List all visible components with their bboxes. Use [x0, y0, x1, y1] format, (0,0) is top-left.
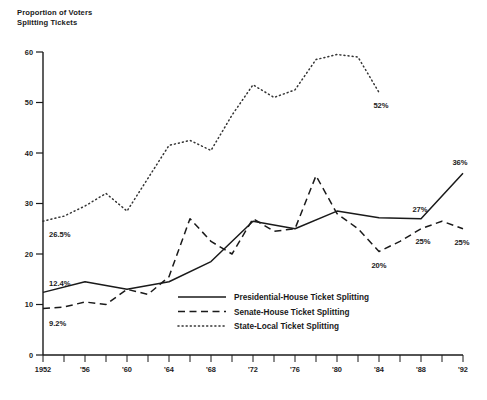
data-point-label: 9.2% — [49, 319, 67, 328]
y-axis-tick-label: 30 — [25, 199, 33, 208]
y-axis-tick-label: 40 — [25, 149, 33, 158]
data-point-label: 27% — [412, 205, 427, 214]
data-point-label: 26.5% — [49, 230, 71, 239]
chart-plot-area: 0102030405060 1952'56'60'64'68'72'76'80'… — [0, 0, 487, 400]
series-line-dotted — [43, 55, 379, 222]
y-axis-tick-label: 20 — [25, 250, 33, 259]
x-axis-tick-label: '56 — [80, 365, 90, 374]
data-point-label: 25% — [415, 237, 430, 246]
series-line-solid — [43, 173, 463, 292]
data-point-label: 25% — [454, 238, 469, 247]
chart-legend: Presidential-House Ticket SplittingSenat… — [178, 293, 369, 331]
x-axis-tick-label: '76 — [290, 365, 300, 374]
y-axis-tick-label: 10 — [25, 300, 33, 309]
data-point-label: 36% — [452, 158, 467, 167]
x-axis-tick-label: '68 — [206, 365, 216, 374]
ticket-splitting-line-chart: Proportion of VotersSplitting Tickets 01… — [0, 0, 487, 400]
x-axis-tick-label: '84 — [374, 365, 385, 374]
series-line-dashed — [43, 176, 463, 309]
data-point-label: 20% — [371, 261, 386, 270]
x-axis: 1952'56'60'64'68'72'76'80'84'88'92 — [35, 355, 468, 374]
x-axis-tick-label: '60 — [122, 365, 132, 374]
y-axis-tick-label: 0 — [29, 351, 33, 360]
legend-label: Senate-House Ticket Splitting — [234, 308, 349, 317]
x-axis-tick-label: '92 — [458, 365, 468, 374]
x-axis-tick-label: '64 — [164, 365, 175, 374]
y-axis-tick-label: 50 — [25, 98, 33, 107]
data-point-label: 12.4% — [49, 279, 71, 288]
y-axis-tick-label: 60 — [25, 48, 33, 57]
x-axis-tick-label: 1952 — [35, 365, 51, 374]
x-axis-tick-label: '88 — [416, 365, 426, 374]
x-axis-tick-label: '80 — [332, 365, 342, 374]
x-axis-tick-label: '72 — [248, 365, 258, 374]
data-series-group — [43, 55, 463, 309]
legend-label: Presidential-House Ticket Splitting — [234, 293, 369, 302]
y-axis: 0102030405060 — [25, 48, 43, 360]
data-point-label: 52% — [373, 101, 388, 110]
legend-label: State-Local Ticket Splitting — [234, 322, 339, 331]
